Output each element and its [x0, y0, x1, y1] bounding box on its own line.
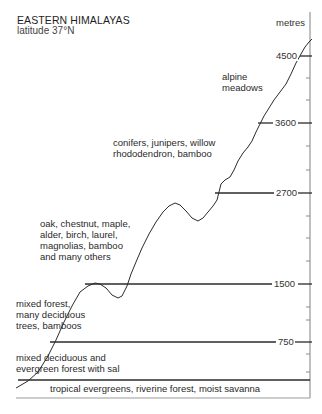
zone-label-tropical: tropical evergreens, riverine forest, mo…: [50, 383, 260, 394]
tick-label-2700: 2700: [275, 187, 298, 198]
zone-label-conifers: conifers, junipers, willow rhododendron,…: [113, 137, 215, 159]
terrain-profile-line: [16, 39, 312, 388]
tick-label-750: 750: [277, 336, 295, 347]
zone-label-broadleaf: oak, chestnut, maple, alder, birch, laur…: [40, 218, 130, 262]
tick-label-4500: 4500: [275, 50, 298, 61]
tick-label-1500: 1500: [273, 278, 296, 289]
zone-label-mixed-deciduous: mixed deciduous and evergreen forest wit…: [16, 352, 120, 374]
diagram-subtitle: latitude 37°N: [17, 25, 74, 36]
minor-ticks: [306, 78, 310, 372]
zone-label-alpine: alpine meadows: [222, 71, 263, 93]
axis-unit-label: metres: [276, 17, 305, 28]
zone-label-mixed-forest: mixed forest, many deciduous trees, bamb…: [16, 298, 85, 331]
tick-label-3600: 3600: [274, 117, 297, 128]
cropped-page-header: [64, 0, 322, 4]
